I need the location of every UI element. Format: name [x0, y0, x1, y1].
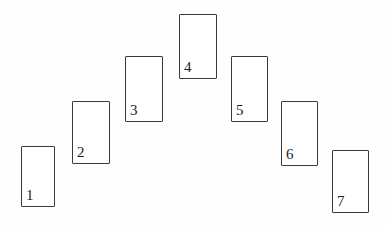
card-3[interactable]: 3 [125, 56, 163, 122]
card-4[interactable]: 4 [179, 14, 217, 79]
card-label: 7 [337, 194, 345, 209]
card-6[interactable]: 6 [281, 101, 318, 166]
card-label: 3 [130, 103, 138, 118]
card-5[interactable]: 5 [231, 56, 268, 122]
card-label: 5 [236, 103, 244, 118]
card-2[interactable]: 2 [72, 101, 110, 164]
card-sequence-canvas: 1234567 [0, 0, 388, 228]
card-label: 6 [286, 147, 294, 162]
card-label: 4 [184, 60, 192, 75]
card-label: 1 [26, 188, 34, 203]
card-1[interactable]: 1 [21, 146, 55, 207]
card-7[interactable]: 7 [332, 150, 369, 213]
card-label: 2 [77, 145, 85, 160]
